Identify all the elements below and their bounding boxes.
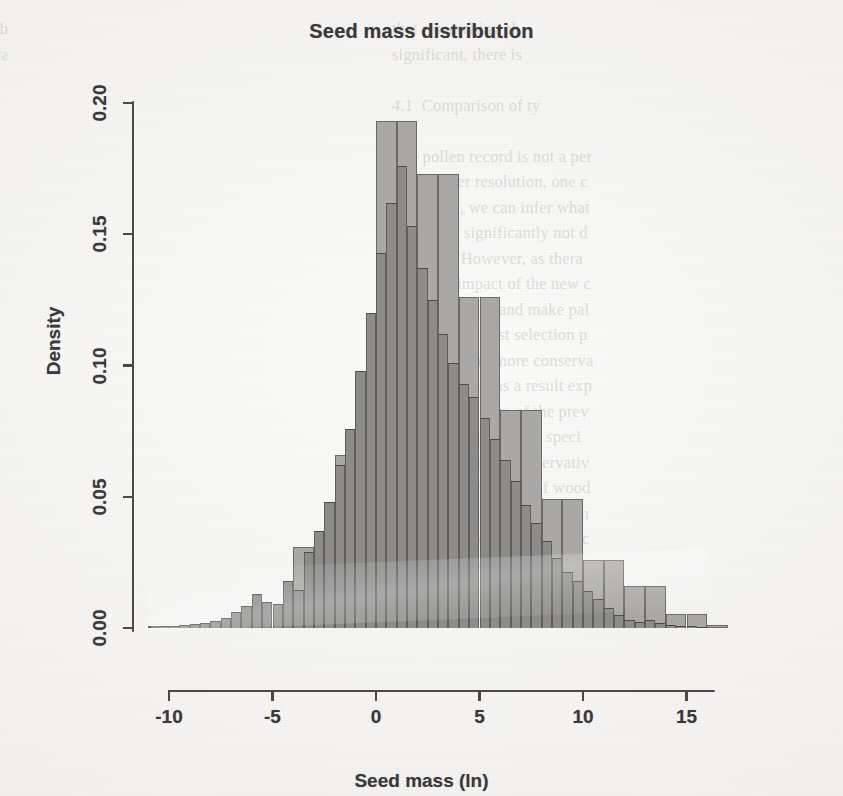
x-axis-tick — [685, 690, 687, 701]
histogram-bar — [314, 531, 324, 628]
histogram-bar — [697, 627, 707, 629]
histogram-bar — [200, 623, 210, 628]
histogram-plot: Seed mass distribution 0.000.050.100.150… — [0, 0, 843, 796]
y-axis-tick-label: 0.05 — [89, 466, 111, 528]
histogram-bar — [221, 618, 231, 629]
histogram-bar — [190, 624, 200, 628]
histogram-bar — [407, 226, 417, 628]
x-axis-tick — [271, 690, 273, 701]
histogram-bars — [133, 95, 733, 628]
histogram-bar — [666, 625, 676, 628]
histogram-bar — [345, 429, 355, 629]
y-axis-tick — [123, 627, 132, 629]
histogram-bar — [614, 615, 624, 628]
histogram-bar — [159, 626, 169, 628]
histogram-bar — [283, 581, 293, 628]
y-axis-tick — [123, 233, 132, 235]
histogram-bar — [304, 552, 314, 628]
histogram-bar — [252, 594, 262, 628]
histogram-bar — [262, 602, 272, 628]
y-axis-tick — [123, 496, 132, 498]
x-axis-tick-label: 5 — [450, 706, 510, 728]
histogram-bar — [490, 439, 500, 628]
histogram-bar — [583, 591, 593, 628]
histogram-bar — [417, 268, 427, 628]
x-axis-tick-label: 15 — [657, 706, 717, 728]
histogram-bar — [448, 363, 458, 628]
histogram-bar — [604, 608, 614, 628]
histogram-bar — [355, 371, 365, 628]
histogram-bar — [573, 581, 583, 628]
histogram-bar — [324, 502, 334, 628]
y-axis-tick-label: 0.15 — [89, 203, 111, 265]
x-axis-tick-label: -10 — [139, 706, 199, 728]
histogram-bar — [231, 612, 241, 628]
histogram-bar — [397, 166, 407, 628]
x-axis-title: Seed mass (ln) — [0, 770, 843, 792]
histogram-bar — [169, 626, 179, 628]
histogram-bar — [273, 604, 283, 628]
histogram-bar — [179, 625, 189, 628]
histogram-bar — [480, 418, 490, 628]
histogram-bar — [521, 505, 531, 628]
plot-panel — [133, 95, 733, 628]
histogram-bar — [469, 397, 479, 628]
x-axis-line — [169, 690, 715, 692]
y-axis-tick — [123, 364, 132, 366]
histogram-bar — [593, 599, 603, 628]
histogram-bar — [687, 626, 697, 628]
x-axis-tick — [478, 690, 480, 701]
x-axis-tick — [582, 690, 584, 701]
histogram-bar — [707, 625, 728, 628]
histogram-bar — [428, 300, 438, 628]
histogram-bar — [645, 620, 655, 628]
x-axis-tick-label: 0 — [346, 706, 406, 728]
histogram-bar — [293, 590, 303, 628]
histogram-bar — [500, 460, 510, 628]
y-axis-tick — [123, 102, 132, 104]
x-axis-tick — [168, 690, 170, 701]
histogram-bar — [552, 558, 562, 628]
histogram-bar — [635, 622, 645, 628]
y-axis-tick-label: 0.20 — [89, 72, 111, 134]
y-axis-tick-label: 0.00 — [89, 597, 111, 659]
histogram-bar — [335, 465, 345, 628]
histogram-bar — [210, 621, 220, 628]
histogram-bar — [531, 523, 541, 628]
histogram-bar — [542, 541, 552, 628]
histogram-bar — [366, 313, 376, 628]
histogram-bar — [562, 572, 572, 628]
x-axis-tick-label: -5 — [243, 706, 303, 728]
histogram-bar — [459, 384, 469, 628]
histogram-bar — [676, 626, 686, 628]
histogram-bar — [376, 253, 386, 628]
histogram-bar — [438, 334, 448, 628]
histogram-bar — [655, 623, 665, 628]
histogram-bar — [386, 203, 396, 628]
histogram-bar — [511, 481, 521, 628]
y-axis-tick-label: 0.10 — [89, 335, 111, 397]
y-axis-title: Density — [43, 281, 65, 401]
histogram-bar — [624, 620, 634, 628]
x-axis-tick-label: 10 — [553, 706, 613, 728]
plot-title: Seed mass distribution — [0, 20, 843, 43]
histogram-bar — [241, 606, 251, 628]
x-axis-tick — [375, 690, 377, 701]
